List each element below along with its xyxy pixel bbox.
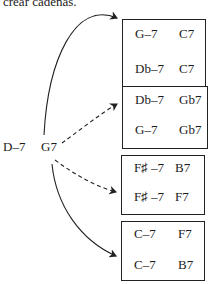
chord: Gb7 (179, 92, 201, 108)
arrow-to-box-4 (52, 164, 116, 256)
source-chord-2: G7 (41, 139, 57, 155)
chord: B7 (175, 160, 190, 176)
chord: F7 (178, 226, 192, 242)
chord: G–7 (135, 122, 157, 138)
chord: C–7 (134, 226, 156, 242)
chord: F♯ –7 (134, 160, 164, 176)
arrow-to-box-2 (62, 104, 117, 143)
chord: B7 (178, 257, 193, 273)
source-chord-1: D–7 (3, 139, 25, 155)
chord: Db–7 (135, 61, 164, 77)
chord: Gb7 (179, 122, 201, 138)
chord-box-2: Db–7 Gb7 G–7 Gb7 (122, 86, 208, 149)
chord-box-3: F♯ –7 B7 F♯ –7 F7 (121, 155, 205, 215)
arrow-to-box-3 (55, 160, 116, 192)
chord: C–7 (134, 257, 156, 273)
chord-box-4: C–7 F7 C–7 B7 (121, 221, 205, 281)
chord: F♯ –7 (134, 189, 164, 205)
chord: C7 (179, 61, 194, 77)
chord: F7 (175, 189, 189, 205)
arrow-to-box-1 (44, 15, 117, 135)
chord: G–7 (135, 26, 157, 42)
chord-box-1: G–7 C7 Db–7 C7 (122, 19, 206, 89)
chord: Db–7 (135, 92, 164, 108)
chord: C7 (179, 26, 194, 42)
